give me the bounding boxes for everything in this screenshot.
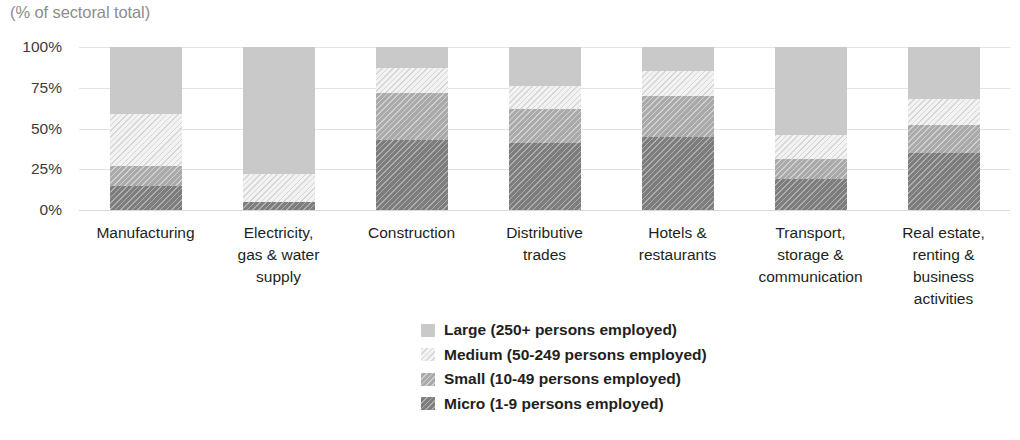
bar-segment-medium[interactable] <box>642 71 714 95</box>
x-axis-label: Manufacturing <box>79 222 212 244</box>
legend-item[interactable]: Micro (1-9 persons employed) <box>421 392 707 417</box>
axis-title: (% of sectoral total) <box>10 3 150 22</box>
bar-segment-micro[interactable] <box>642 137 714 210</box>
bar-group[interactable] <box>908 47 980 210</box>
stacked-bar[interactable] <box>243 47 315 210</box>
bar-segment-small[interactable] <box>110 166 182 186</box>
bar-segment-micro[interactable] <box>775 179 847 210</box>
x-axis-label: Transport, storage & communication <box>744 222 877 288</box>
y-tick-label: 25% <box>0 160 62 178</box>
bar-group[interactable] <box>642 47 714 210</box>
bar-group[interactable] <box>243 47 315 210</box>
stacked-bar[interactable] <box>376 47 448 210</box>
legend-label: Micro (1-9 persons employed) <box>444 395 664 413</box>
bar-group[interactable] <box>509 47 581 210</box>
bar-segment-micro[interactable] <box>509 143 581 210</box>
bar-segment-micro[interactable] <box>243 202 315 210</box>
bar-group[interactable] <box>775 47 847 210</box>
bar-segment-medium[interactable] <box>110 114 182 166</box>
bar-segment-small[interactable] <box>775 159 847 179</box>
stacked-bar[interactable] <box>509 47 581 210</box>
bar-segment-micro[interactable] <box>376 140 448 210</box>
y-tick-label: 0% <box>0 201 62 219</box>
x-axis-label: Real estate, renting & business activiti… <box>877 222 1010 310</box>
gridline <box>79 210 1010 211</box>
x-axis-label: Hotels & restaurants <box>611 222 744 266</box>
bar-segment-micro[interactable] <box>110 186 182 210</box>
stacked-bar[interactable] <box>642 47 714 210</box>
legend-label: Medium (50-249 persons employed) <box>444 346 707 364</box>
chart-legend: Large (250+ persons employed)Medium (50-… <box>421 318 707 416</box>
chart-plot-area <box>79 47 1010 210</box>
x-axis-label: Electricity, gas & water supply <box>212 222 345 288</box>
legend-swatch-large <box>421 324 435 337</box>
x-axis-label: Distributive trades <box>478 222 611 266</box>
legend-item[interactable]: Small (10-49 persons employed) <box>421 367 707 392</box>
stacked-bar[interactable] <box>908 47 980 210</box>
bar-segment-small[interactable] <box>509 109 581 143</box>
bar-segment-large[interactable] <box>509 47 581 86</box>
bar-segment-medium[interactable] <box>908 99 980 125</box>
legend-swatch-small <box>421 373 435 386</box>
x-axis-label: Construction <box>345 222 478 244</box>
y-tick-label: 75% <box>0 79 62 97</box>
y-tick-label: 100% <box>0 38 62 56</box>
bar-segment-small[interactable] <box>642 96 714 137</box>
bar-segment-micro[interactable] <box>908 153 980 210</box>
bar-segment-large[interactable] <box>110 47 182 114</box>
bar-segment-medium[interactable] <box>775 135 847 159</box>
bar-segment-medium[interactable] <box>509 86 581 109</box>
bar-segment-medium[interactable] <box>376 68 448 92</box>
bar-segment-large[interactable] <box>642 47 714 71</box>
bar-segment-large[interactable] <box>376 47 448 68</box>
bar-segment-large[interactable] <box>243 47 315 174</box>
bar-group[interactable] <box>376 47 448 210</box>
bar-segment-small[interactable] <box>376 93 448 140</box>
legend-item[interactable]: Medium (50-249 persons employed) <box>421 343 707 368</box>
legend-swatch-medium <box>421 348 435 361</box>
bar-segment-medium[interactable] <box>243 174 315 202</box>
stacked-bar[interactable] <box>110 47 182 210</box>
y-tick-label: 50% <box>0 120 62 138</box>
bar-segment-large[interactable] <box>775 47 847 135</box>
legend-label: Small (10-49 persons employed) <box>444 370 681 388</box>
stacked-bar[interactable] <box>775 47 847 210</box>
legend-item[interactable]: Large (250+ persons employed) <box>421 318 707 343</box>
bar-group[interactable] <box>110 47 182 210</box>
bar-segment-large[interactable] <box>908 47 980 99</box>
bar-segment-small[interactable] <box>908 125 980 153</box>
legend-label: Large (250+ persons employed) <box>444 321 677 339</box>
legend-swatch-micro <box>421 397 435 410</box>
